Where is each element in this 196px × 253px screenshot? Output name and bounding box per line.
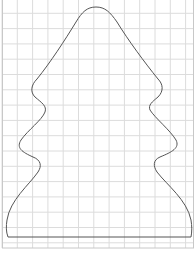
tree-template-diagram <box>0 0 196 253</box>
grid-paper <box>2 0 194 248</box>
christmas-tree-outline <box>6 7 191 237</box>
grid-border <box>3 0 194 248</box>
